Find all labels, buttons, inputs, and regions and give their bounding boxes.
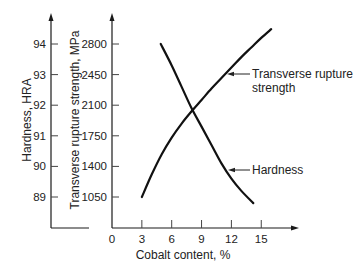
y-tick-label: 91 — [33, 130, 46, 142]
arrow-right-icon — [291, 226, 299, 231]
y-tick-label: 90 — [33, 160, 46, 172]
hardness-annotation: Hardness — [228, 163, 303, 177]
y-tick-label: 93 — [33, 69, 46, 81]
strength-axis: 105014001750210024502800 03691215 — [81, 13, 299, 245]
arrow-left-icon — [228, 168, 235, 172]
chart: 899091929394 Hardness, HRA 1050140017502… — [0, 0, 363, 267]
x-tick-label: 3 — [139, 233, 145, 245]
arrow-up-icon — [110, 13, 115, 21]
x-tick-label: 15 — [255, 233, 268, 245]
y-tick-label: 1050 — [81, 191, 107, 203]
x-tick-label: 9 — [198, 233, 204, 245]
y-tick-label: 89 — [33, 191, 46, 203]
hardness-curve — [161, 44, 254, 203]
y-tick-label: 1400 — [81, 160, 107, 172]
y-tick-label: 2100 — [81, 99, 107, 111]
strength-annotation-line2: strength — [252, 81, 295, 95]
hardness-annotation-label: Hardness — [252, 163, 303, 177]
strength-annotation-line1: Transverse rupture — [252, 67, 353, 81]
x-axis-title: Cobalt content, % — [136, 248, 231, 262]
hardness-axis-title: Hardness, HRA — [20, 78, 34, 161]
y-tick-label: 94 — [33, 38, 46, 50]
strength-annotation: Transverse rupture strength — [227, 67, 353, 95]
arrow-up-icon — [49, 13, 54, 21]
x-tick-label: 0 — [109, 233, 115, 245]
y-tick-label: 92 — [33, 99, 46, 111]
x-tick-label: 6 — [168, 233, 174, 245]
y-tick-label: 2800 — [81, 38, 107, 50]
strength-axis-title: Transverse rupture strength, MPa — [68, 30, 82, 209]
y-tick-label: 1750 — [81, 130, 107, 142]
y-tick-label: 2450 — [81, 69, 107, 81]
x-tick-label: 12 — [225, 233, 238, 245]
